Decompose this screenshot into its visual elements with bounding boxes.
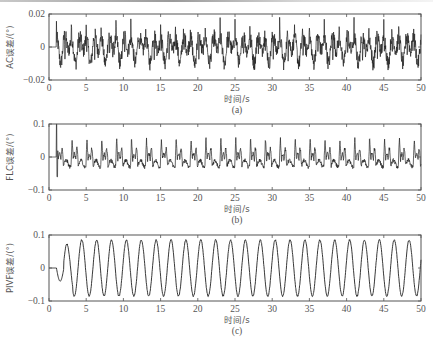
x-tick-label: 35 bbox=[305, 304, 315, 314]
x-tick-label: 40 bbox=[342, 193, 352, 203]
y-axis-label: PIVF误差/(°) bbox=[5, 243, 15, 293]
x-tick-label: 50 bbox=[416, 83, 426, 93]
y-tick-label: 0 bbox=[40, 152, 45, 162]
y-axis-label: FLC误差/(°) bbox=[5, 133, 15, 180]
x-axis-label: 时间/s bbox=[224, 204, 250, 214]
x-tick-label: 5 bbox=[84, 304, 89, 314]
data-line bbox=[49, 124, 421, 177]
y-tick-label: −0.1 bbox=[28, 185, 45, 195]
x-tick-label: 5 bbox=[84, 193, 89, 203]
x-tick-label: 40 bbox=[342, 83, 352, 93]
data-line bbox=[49, 17, 421, 70]
x-tick-label: 45 bbox=[379, 83, 389, 93]
data-line bbox=[49, 239, 421, 296]
y-tick-label: 0.1 bbox=[33, 230, 45, 240]
x-tick-label: 5 bbox=[84, 83, 89, 93]
x-tick-label: 45 bbox=[379, 193, 389, 203]
x-tick-label: 20 bbox=[193, 83, 203, 93]
x-tick-label: 15 bbox=[156, 304, 166, 314]
x-tick-label: 25 bbox=[230, 193, 240, 203]
x-tick-label: 30 bbox=[267, 83, 277, 93]
y-axis-label: AC误差/(°) bbox=[5, 25, 15, 68]
x-tick-label: 50 bbox=[416, 304, 426, 314]
y-tick-label: −0.02 bbox=[23, 75, 45, 85]
panel-label: (a) bbox=[232, 105, 243, 116]
panel-label: (c) bbox=[232, 326, 243, 337]
x-tick-label: 35 bbox=[305, 193, 315, 203]
panel-a: 05101520253035404550−0.0200.02AC误差/(°)时间… bbox=[5, 9, 426, 116]
x-tick-label: 10 bbox=[119, 304, 129, 314]
x-tick-label: 40 bbox=[342, 304, 352, 314]
x-tick-label: 20 bbox=[193, 304, 203, 314]
y-tick-label: 0.1 bbox=[33, 119, 45, 129]
x-tick-label: 10 bbox=[119, 193, 129, 203]
axes-frame bbox=[49, 235, 421, 301]
y-tick-label: 0.02 bbox=[28, 9, 45, 19]
panel-label: (b) bbox=[231, 215, 242, 226]
x-tick-label: 25 bbox=[230, 83, 240, 93]
y-tick-label: 0 bbox=[40, 42, 45, 52]
x-axis-label: 时间/s bbox=[224, 315, 250, 325]
x-tick-label: 20 bbox=[193, 193, 203, 203]
figure: 05101520253035404550−0.0200.02AC误差/(°)时间… bbox=[0, 0, 433, 351]
panel-b: 05101520253035404550−0.100.1FLC误差/(°)时间/… bbox=[5, 119, 426, 226]
x-tick-label: 15 bbox=[156, 193, 166, 203]
x-tick-label: 45 bbox=[379, 304, 389, 314]
x-tick-label: 15 bbox=[156, 83, 166, 93]
x-axis-label: 时间/s bbox=[224, 94, 250, 104]
x-tick-label: 25 bbox=[230, 304, 240, 314]
x-tick-label: 0 bbox=[47, 304, 52, 314]
x-tick-label: 50 bbox=[416, 193, 426, 203]
x-tick-label: 30 bbox=[267, 193, 277, 203]
x-tick-label: 0 bbox=[47, 83, 52, 93]
x-tick-label: 10 bbox=[119, 83, 129, 93]
panel-c: 05101520253035404550−0.100.1PIVF误差/(°)时间… bbox=[5, 230, 426, 337]
y-tick-label: −0.1 bbox=[28, 296, 45, 306]
x-tick-label: 35 bbox=[305, 83, 315, 93]
y-tick-label: 0 bbox=[40, 263, 45, 273]
x-tick-label: 30 bbox=[267, 304, 277, 314]
x-tick-label: 0 bbox=[47, 193, 52, 203]
